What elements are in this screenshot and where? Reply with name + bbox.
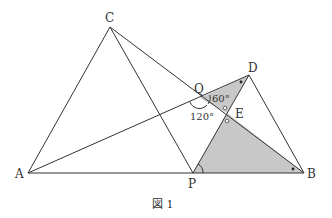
circle-mark-below-E [225,119,229,123]
segment-AC [28,27,110,173]
label-P: P [188,177,196,191]
label-A: A [14,167,24,181]
label-Q: Q [194,82,204,96]
angle-arc-120-at-Q [190,102,207,109]
figure-caption: 図 1 [152,198,174,211]
label-E: E [235,107,244,121]
label-C: C [105,11,114,25]
dot-mark-B [292,168,295,171]
segment-CP [110,27,193,173]
label-D: D [248,61,258,75]
geometry-figure: A C P B D Q E 60° 120° 図 1 [0,0,332,218]
angle-label-120: 120° [190,111,214,122]
label-B: B [307,167,316,181]
angle-label-60: 60° [212,93,230,104]
circle-mark-above-E [223,106,227,110]
dot-mark-D [240,81,243,84]
